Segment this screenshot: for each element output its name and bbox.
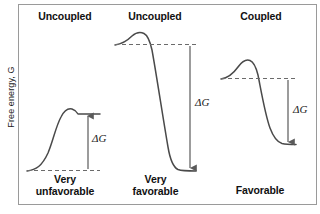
panel-1-graphics xyxy=(27,109,100,171)
panel-2-graphics xyxy=(115,32,196,171)
panel-1-caption: Very unfavorable xyxy=(20,174,110,197)
panel-2-delta-g-label: ΔG xyxy=(195,96,209,108)
panel-1-caption-line-1: Very xyxy=(20,174,110,186)
panel-3-title: Coupled xyxy=(218,10,304,22)
panel-1-delta-g-label: ΔG xyxy=(92,132,106,144)
panel-3-graphics xyxy=(221,60,296,144)
panel-3-delta-g-label: ΔG xyxy=(293,103,307,115)
panel-3-caption-line-1: Favorable xyxy=(215,185,305,197)
panel-2-caption-line-2: favorable xyxy=(113,186,198,198)
panel-3-energy-curve xyxy=(221,60,296,144)
panel-1-energy-curve xyxy=(27,109,100,171)
panel-1-title: Uncoupled xyxy=(22,10,108,22)
panel-2-caption-line-1: Very xyxy=(113,174,198,186)
panel-2-caption: Very favorable xyxy=(113,174,198,197)
free-energy-diagram-figure: Free energy, G xyxy=(0,0,320,214)
panel-2-title: Uncoupled xyxy=(112,10,198,22)
panel-3-caption: Favorable xyxy=(215,185,305,197)
panel-2-energy-curve xyxy=(115,32,196,171)
panel-1-caption-line-2: unfavorable xyxy=(20,186,110,198)
